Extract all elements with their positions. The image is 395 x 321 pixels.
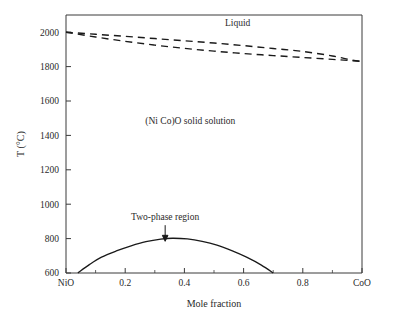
x-tick-label: 0.2: [119, 278, 131, 288]
y-tick-label: 800: [45, 234, 60, 244]
y-tick-label: 1400: [40, 131, 59, 141]
x-tick-label: 0.6: [238, 278, 250, 288]
y-tick-label: 1200: [40, 165, 59, 175]
liquid-label: Liquid: [225, 18, 251, 28]
x-axis-title: Mole fraction: [187, 298, 242, 309]
y-tick-label: 1800: [40, 62, 59, 72]
y-axis-tick-labels: 600800100012001400160018002000: [40, 28, 59, 279]
y-tick-label: 1600: [40, 96, 59, 106]
curve-miscibility-gap: [78, 238, 273, 273]
x-tick-label: 0.8: [297, 278, 309, 288]
y-axis-title: T (°C): [15, 131, 27, 157]
x-tick-label: CoO: [353, 278, 371, 288]
solid-solution-label: (Ni Co)O solid solution: [145, 116, 235, 127]
x-axis-tick-labels: NiO0.20.40.60.8CoO: [58, 278, 371, 288]
chart-annotations: Liquid(Ni Co)O solid solutionTwo-phase r…: [131, 18, 251, 241]
two-phase-label: Two-phase region: [131, 212, 199, 222]
x-tick-label: NiO: [58, 278, 75, 288]
y-tick-label: 1000: [40, 200, 59, 210]
curve-solidus: [66, 32, 362, 61]
x-tick-label: 0.4: [178, 278, 190, 288]
curve-liquidus: [66, 32, 362, 61]
phase-diagram-svg: 600800100012001400160018002000 NiO0.20.4…: [0, 0, 395, 321]
data-curves: [66, 32, 362, 273]
y-tick-label: 600: [45, 268, 60, 278]
y-axis-ticks: [66, 32, 71, 273]
phase-diagram-figure: 600800100012001400160018002000 NiO0.20.4…: [0, 0, 395, 321]
y-tick-label: 2000: [40, 28, 59, 38]
